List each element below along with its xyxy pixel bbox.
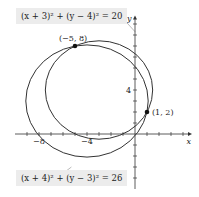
point-2 — [145, 110, 150, 115]
y-tick-label: 4 — [126, 86, 131, 95]
y-axis-arrow — [133, 16, 137, 20]
x-tick-label: −8 — [33, 137, 45, 146]
plot: −8−44xy(−5, 8)(1, 2) — [0, 0, 199, 197]
point-1 — [73, 44, 78, 49]
x-axis-arrow — [188, 132, 192, 136]
point-label-1: (−5, 8) — [59, 34, 87, 43]
equation-label-circle-2: (x + 4)² + (y − 3)² = 26 — [16, 170, 127, 186]
equation-label-circle-1: (x + 3)² + (y − 4)² = 20 — [16, 8, 127, 24]
x-axis-label: x — [187, 137, 192, 146]
point-label-2: (1, 2) — [152, 108, 174, 117]
